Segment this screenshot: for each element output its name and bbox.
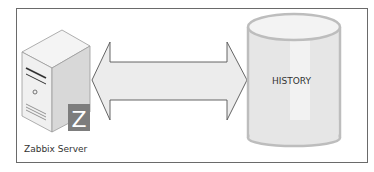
bidirectional-arrow: [92, 42, 247, 120]
zabbix-server-label: Zabbix Server: [24, 144, 87, 154]
history-label: HISTORY: [272, 76, 311, 86]
svg-text:Z: Z: [71, 107, 86, 132]
zabbix-badge-icon: Z: [68, 104, 90, 132]
